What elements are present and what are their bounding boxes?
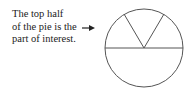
radius-left xyxy=(124,14,144,48)
arrow-icon xyxy=(82,25,95,31)
radius-right xyxy=(144,14,164,48)
pie-diagram xyxy=(0,0,191,94)
